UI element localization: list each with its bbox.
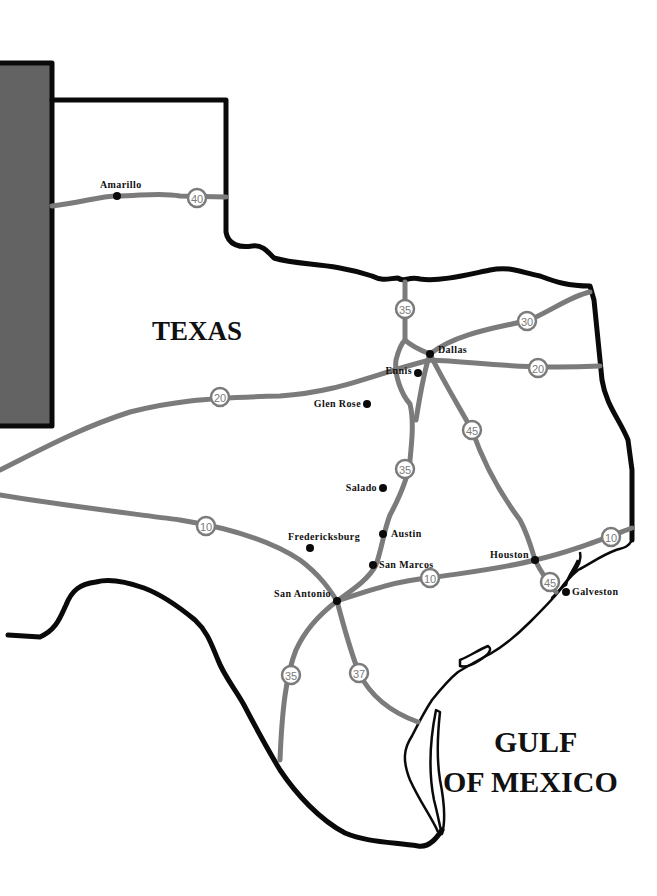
city-label: Salado — [346, 482, 377, 493]
i20-road — [0, 360, 600, 470]
city-label: Amarillo — [100, 179, 142, 190]
city-label: San Marcos — [379, 559, 434, 570]
city-san-marcos: San Marcos — [369, 559, 434, 570]
shield-number: 10 — [200, 521, 212, 533]
city-salado: Salado — [346, 482, 387, 493]
water-label-gulf: GULF — [494, 725, 577, 758]
matagorda-bay — [460, 646, 490, 667]
city-dot-icon — [369, 561, 377, 569]
shield-number: 35 — [285, 670, 297, 682]
highway-shield-10: 10 — [197, 517, 215, 535]
city-dot-icon — [379, 530, 387, 538]
city-dot-icon — [414, 369, 422, 377]
city-dot-icon — [562, 588, 570, 596]
shield-number: 20 — [532, 363, 544, 375]
city-dot-icon — [379, 484, 387, 492]
highways — [0, 194, 632, 760]
shield-number: 40 — [191, 193, 203, 205]
texas-map: 40353020204535101010453537 AmarilloDalla… — [0, 0, 657, 896]
city-dot-icon — [306, 544, 314, 552]
map-canvas: 40353020204535101010453537 AmarilloDalla… — [0, 0, 657, 896]
shield-number: 35 — [399, 464, 411, 476]
highway-shields: 40353020204535101010453537 — [188, 189, 620, 684]
city-dot-icon — [426, 350, 434, 358]
shield-number: 37 — [353, 668, 365, 680]
highway-shield-45: 45 — [463, 421, 481, 439]
shield-number: 45 — [466, 425, 478, 437]
highway-shield-45: 45 — [541, 573, 559, 591]
city-label: San Antonio — [274, 588, 331, 599]
shield-number: 10 — [605, 532, 617, 544]
city-label: Fredericksburg — [288, 531, 360, 542]
i10-road — [0, 495, 632, 601]
texas-southwest-border — [8, 581, 442, 847]
highway-shield-37: 37 — [350, 664, 368, 682]
city-label: Glen Rose — [314, 398, 361, 409]
city-dot-icon — [333, 597, 341, 605]
highway-shield-35: 35 — [396, 300, 414, 318]
shield-number: 30 — [521, 316, 533, 328]
cities: AmarilloDallasEnnisGlen RoseSaladoAustin… — [100, 179, 618, 605]
highway-shield-10: 10 — [421, 569, 439, 587]
city-dot-icon — [113, 192, 121, 200]
city-fredericksburg: Fredericksburg — [288, 531, 360, 552]
highway-shield-35: 35 — [282, 666, 300, 684]
highway-shield-40: 40 — [188, 189, 206, 207]
city-glen-rose: Glen Rose — [314, 398, 371, 409]
highway-shield-35: 35 — [396, 460, 414, 478]
city-label: Houston — [490, 549, 529, 560]
city-ennis: Ennis — [386, 365, 422, 377]
city-galveston: Galveston — [562, 586, 618, 597]
city-label: Galveston — [572, 586, 618, 597]
region-label-texas: TEXAS — [152, 316, 242, 346]
i35-road — [280, 282, 412, 760]
left-panel — [0, 62, 52, 426]
highway-shield-20: 20 — [211, 388, 229, 406]
highway-shield-10: 10 — [602, 528, 620, 546]
city-label: Dallas — [438, 344, 467, 355]
city-dallas: Dallas — [426, 344, 467, 358]
city-dot-icon — [531, 556, 539, 564]
shield-number: 10 — [424, 573, 436, 585]
highway-shield-30: 30 — [518, 312, 536, 330]
city-label: Austin — [391, 528, 422, 539]
i37-road — [337, 601, 418, 722]
shield-number: 45 — [544, 577, 556, 589]
city-label: Ennis — [386, 365, 412, 376]
city-dot-icon — [363, 400, 371, 408]
shield-number: 20 — [214, 392, 226, 404]
city-san-antonio: San Antonio — [274, 588, 341, 605]
highway-shield-20: 20 — [529, 359, 547, 377]
texas-border — [52, 100, 632, 540]
water-label-of-mexico: OF MEXICO — [443, 765, 618, 798]
shield-number: 35 — [399, 304, 411, 316]
